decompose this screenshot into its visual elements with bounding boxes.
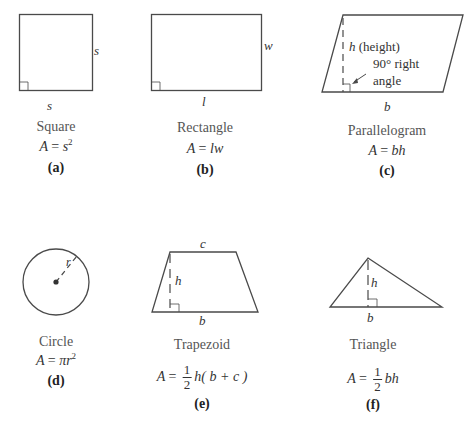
triangle-name: Triangle	[350, 337, 397, 353]
square-side-right-label: s	[94, 43, 99, 59]
parallelogram-base-label: b	[384, 99, 391, 115]
figure-label-b: (b)	[196, 162, 213, 178]
parallelogram-formula: A = bh	[368, 143, 405, 159]
figure-label-a: (a)	[48, 160, 64, 176]
trapezoid-shape	[152, 252, 258, 312]
square-name: Square	[37, 119, 76, 135]
rectangle-length-label: l	[202, 94, 206, 110]
triangle-base-label: b	[367, 310, 374, 326]
circle-formula: A = πr2	[36, 353, 76, 369]
circle-name: Circle	[39, 334, 73, 350]
triangle-shape	[330, 258, 442, 307]
trapezoid-base-label: b	[199, 313, 206, 329]
figure-label-f: (f)	[366, 397, 380, 413]
rectangle-formula: A = lw	[187, 141, 223, 157]
figure-label-d: (d)	[47, 373, 64, 389]
circle-radius-label: r	[66, 255, 71, 270]
square-shape	[20, 15, 93, 91]
square-formula: A = s2	[39, 139, 72, 155]
trapezoid-top-label: c	[200, 236, 206, 252]
parallelogram-height-note: h (height)	[349, 39, 400, 55]
trapezoid-formula: A = 12h( b + c )	[157, 363, 248, 392]
square-side-bottom-label: s	[47, 98, 52, 114]
parallelogram-name: Parallelogram	[348, 123, 427, 139]
rectangle-name: Rectangle	[177, 120, 233, 136]
triangle-formula: A = 12bh	[347, 365, 399, 394]
trapezoid-height-label: h	[175, 273, 182, 289]
right-angle-note-line2: angle	[373, 73, 401, 89]
triangle-height-label: h	[371, 275, 378, 291]
rectangle-width-label: w	[264, 38, 273, 54]
circle-shape	[23, 249, 89, 315]
rectangle-shape	[152, 15, 262, 91]
right-angle-note-line1: 90° right	[373, 56, 419, 72]
figure-label-e: (e)	[194, 396, 210, 412]
trapezoid-name: Trapezoid	[174, 337, 230, 353]
figure-label-c: (c)	[379, 163, 395, 179]
